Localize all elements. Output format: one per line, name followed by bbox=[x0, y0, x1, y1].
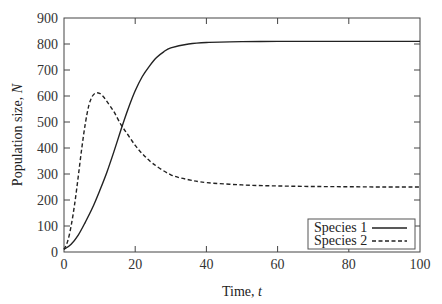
x-tick-label: 60 bbox=[271, 257, 285, 272]
y-tick-label: 700 bbox=[37, 63, 58, 78]
y-tick-label: 900 bbox=[37, 11, 58, 26]
x-tick-label: 80 bbox=[342, 257, 356, 272]
x-tick-label: 40 bbox=[199, 257, 213, 272]
x-tick-label: 100 bbox=[410, 257, 431, 272]
y-tick-label: 400 bbox=[37, 141, 58, 156]
y-tick-label: 300 bbox=[37, 167, 58, 182]
series-lines bbox=[64, 41, 420, 249]
legend: Species 1 Species 2 bbox=[308, 219, 415, 249]
y-tick-label: 0 bbox=[51, 245, 58, 260]
y-tick-label: 100 bbox=[37, 219, 58, 234]
y-tick-label: 600 bbox=[37, 89, 58, 104]
x-tick-label: 0 bbox=[61, 257, 68, 272]
plot-frame bbox=[64, 18, 420, 252]
x-axis-title: Time, t bbox=[222, 284, 263, 299]
y-axis-title: Population size, N bbox=[10, 83, 25, 186]
series-line-species-1 bbox=[64, 41, 420, 249]
legend-label-species-2: Species 2 bbox=[314, 233, 367, 248]
y-tick-label: 500 bbox=[37, 115, 58, 130]
y-tick-label: 200 bbox=[37, 193, 58, 208]
x-tick-label: 20 bbox=[128, 257, 142, 272]
y-tick-label: 800 bbox=[37, 37, 58, 52]
line-chart: 020406080100 010020030040050060070080090… bbox=[0, 0, 442, 304]
